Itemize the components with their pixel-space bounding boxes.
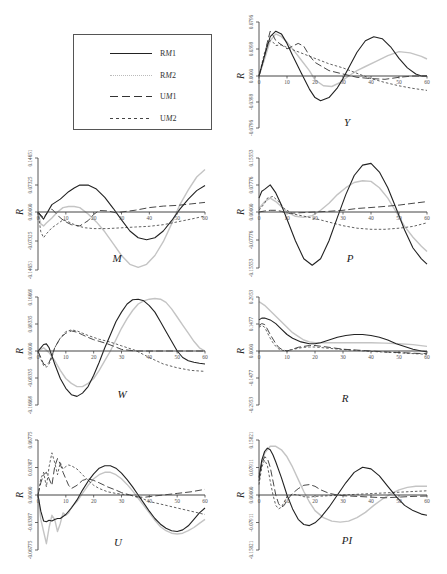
- x-tick-label: 40: [368, 354, 374, 360]
- y-axis-title: R: [235, 492, 246, 499]
- y-tick-label: -0.15821: [248, 540, 254, 559]
- y-tick-label: -0.07776: [248, 230, 254, 249]
- x-tick-label: 50: [396, 498, 402, 504]
- y-axis-title: R: [235, 348, 246, 355]
- x-tick-label: 10: [284, 215, 290, 221]
- y-tick-label: 0.06775: [27, 431, 33, 448]
- y-tick-label: -0.0398: [248, 94, 254, 110]
- x-tick-label: 20: [312, 498, 318, 504]
- x-tick-label: 50: [174, 354, 180, 360]
- y-tick-label: 0.2953: [248, 289, 254, 304]
- y-tick-label: 0.0796: [248, 14, 254, 29]
- x-tick-label: 10: [63, 215, 69, 221]
- x-tick-label: 0: [258, 215, 261, 221]
- x-tick-label: 10: [63, 498, 69, 504]
- panel-title: M: [111, 252, 122, 264]
- series-rm2: [259, 302, 427, 347]
- series-rm1: [38, 299, 205, 396]
- x-tick-label: 40: [147, 215, 153, 221]
- series-rm1: [259, 448, 427, 525]
- x-tick-label: 30: [340, 354, 346, 360]
- x-tick-label: 50: [396, 215, 402, 221]
- x-tick-label: 0: [37, 354, 40, 360]
- x-tick-label: 60: [202, 354, 208, 360]
- y-tick-label: 0.15553: [248, 149, 254, 166]
- panel-pi: -0.15821-0.079110.000000.079110.15821R01…: [235, 431, 430, 559]
- y-tick-label: 0.00000: [27, 342, 33, 359]
- panel-title: Y: [344, 116, 352, 128]
- panel-y: -0.0796-0.03980.00000.03980.0796R0102030…: [235, 14, 430, 136]
- y-tick-label: -0.2953: [248, 397, 254, 413]
- x-tick-label: 30: [340, 498, 346, 504]
- panel-title: W: [117, 388, 127, 400]
- series-rm1: [259, 31, 427, 101]
- x-tick-label: 30: [119, 354, 125, 360]
- x-tick-label: 0: [258, 79, 261, 85]
- y-tick-label: 0.15821: [248, 431, 254, 448]
- x-tick-label: 0: [258, 354, 261, 360]
- x-tick-label: 60: [424, 498, 430, 504]
- x-tick-label: 60: [424, 79, 430, 85]
- series-um2: [259, 325, 427, 354]
- x-tick-label: 10: [63, 354, 69, 360]
- panel-p: -0.15553-0.077760.000000.077760.15553R01…: [235, 149, 430, 277]
- panel-w: -0.16669-0.083350.000000.083350.16669R01…: [14, 288, 208, 414]
- x-tick-label: 60: [202, 498, 208, 504]
- series-um1: [259, 324, 427, 354]
- y-tick-label: -0.03387: [27, 513, 33, 532]
- y-tick-label: 0.00000: [27, 486, 33, 503]
- x-tick-label: 20: [91, 354, 97, 360]
- x-tick-label: 10: [284, 498, 290, 504]
- y-tick-label: 0.0000: [248, 343, 254, 358]
- panel-title: U: [114, 536, 123, 548]
- y-tick-label: 0.00000: [248, 203, 254, 220]
- y-tick-label: 0.0000: [248, 68, 254, 83]
- y-axis-title: R: [14, 209, 25, 216]
- x-tick-label: 40: [147, 354, 153, 360]
- y-tick-label: 0.1477: [248, 316, 254, 331]
- y-tick-label: -0.08335: [27, 368, 33, 387]
- y-tick-label: -0.06775: [27, 540, 33, 559]
- y-axis-title: R: [235, 73, 246, 80]
- y-tick-label: -0.07911: [248, 513, 254, 532]
- x-tick-label: 0: [37, 215, 40, 221]
- x-tick-label: 50: [174, 215, 180, 221]
- y-tick-label: -0.15553: [248, 258, 254, 277]
- x-tick-label: 20: [91, 498, 97, 504]
- y-axis-title: R: [235, 209, 246, 216]
- panel-m: -0.14651-0.073250.000000.073250.14651R01…: [14, 149, 208, 279]
- y-tick-label: 0.03387: [27, 459, 33, 476]
- x-tick-label: 20: [312, 79, 318, 85]
- x-tick-label: 30: [119, 215, 125, 221]
- y-tick-label: -0.16669: [27, 395, 33, 414]
- series-rm2: [259, 446, 427, 522]
- x-tick-label: 40: [368, 498, 374, 504]
- x-tick-label: 10: [284, 354, 290, 360]
- y-tick-label: -0.0796: [248, 120, 254, 136]
- series-rm1: [259, 318, 427, 352]
- panel-title: PI: [341, 534, 354, 546]
- panel-title: P: [346, 252, 354, 264]
- y-axis-title: R: [14, 492, 25, 499]
- y-tick-label: 0.07776: [248, 176, 254, 193]
- x-tick-label: 20: [91, 215, 97, 221]
- series-rm2: [38, 472, 205, 543]
- x-tick-label: 20: [312, 215, 318, 221]
- y-tick-label: -0.07325: [27, 231, 33, 250]
- y-tick-label: 0.16669: [27, 288, 33, 305]
- y-tick-label: 0.08335: [27, 315, 33, 332]
- y-tick-label: 0.00000: [248, 486, 254, 503]
- panel-title: R: [341, 392, 349, 404]
- x-tick-label: 30: [340, 215, 346, 221]
- x-tick-label: 50: [396, 79, 402, 85]
- x-tick-label: 30: [340, 79, 346, 85]
- y-tick-label: 0.07911: [248, 459, 254, 476]
- x-tick-label: 50: [396, 354, 402, 360]
- y-tick-label: 0.0398: [248, 41, 254, 56]
- y-axis-title: R: [14, 348, 25, 355]
- x-tick-label: 0: [37, 498, 40, 504]
- x-tick-label: 60: [424, 354, 430, 360]
- y-tick-label: -0.1477: [248, 370, 254, 386]
- x-tick-label: 60: [424, 215, 430, 221]
- y-tick-label: 0.00000: [27, 203, 33, 220]
